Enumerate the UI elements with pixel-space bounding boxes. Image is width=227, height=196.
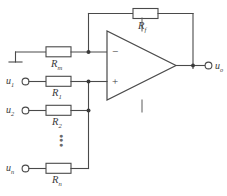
input-resistor-label-r2: R2 [52, 117, 62, 128]
output-terminal[interactable] [205, 62, 212, 69]
feedback-resistor-rf [133, 9, 158, 19]
output-label: uo [215, 61, 223, 71]
circuit-diagram: − + Rf Rm u1 u2 un R1 R2 Rn ●●● uo [0, 0, 227, 196]
input-source-label-u2: u2 [6, 105, 14, 115]
input-source-label-u1: u1 [6, 76, 14, 86]
input-terminal-un[interactable] [22, 165, 29, 172]
input-resistor-rn [46, 163, 71, 173]
summing-node-dot-1 [87, 80, 91, 84]
input-resistor-label-rn: Rn [52, 175, 62, 186]
opamp-noninverting-sign: + [112, 76, 118, 87]
input-resistor-r1 [46, 76, 71, 86]
balance-resistor-label: Rm [51, 59, 62, 70]
opamp-triangle [107, 31, 176, 100]
input-resistor-label-r1: R1 [52, 88, 62, 99]
continuation-ellipsis-icon: ●●● [59, 134, 63, 147]
opamp-inverting-sign: − [112, 46, 118, 57]
input-resistor-r2 [46, 105, 71, 115]
summing-node-dot-2 [87, 109, 91, 113]
schematic-canvas [0, 0, 227, 196]
input-terminal-u2[interactable] [22, 107, 29, 114]
inverting-node-dot [87, 50, 91, 54]
input-source-label-un: un [6, 163, 14, 173]
feedback-resistor-label: Rf [138, 21, 146, 32]
output-node-dot [191, 64, 195, 68]
input-terminal-u1[interactable] [22, 78, 29, 85]
balance-resistor-rm [46, 47, 71, 57]
